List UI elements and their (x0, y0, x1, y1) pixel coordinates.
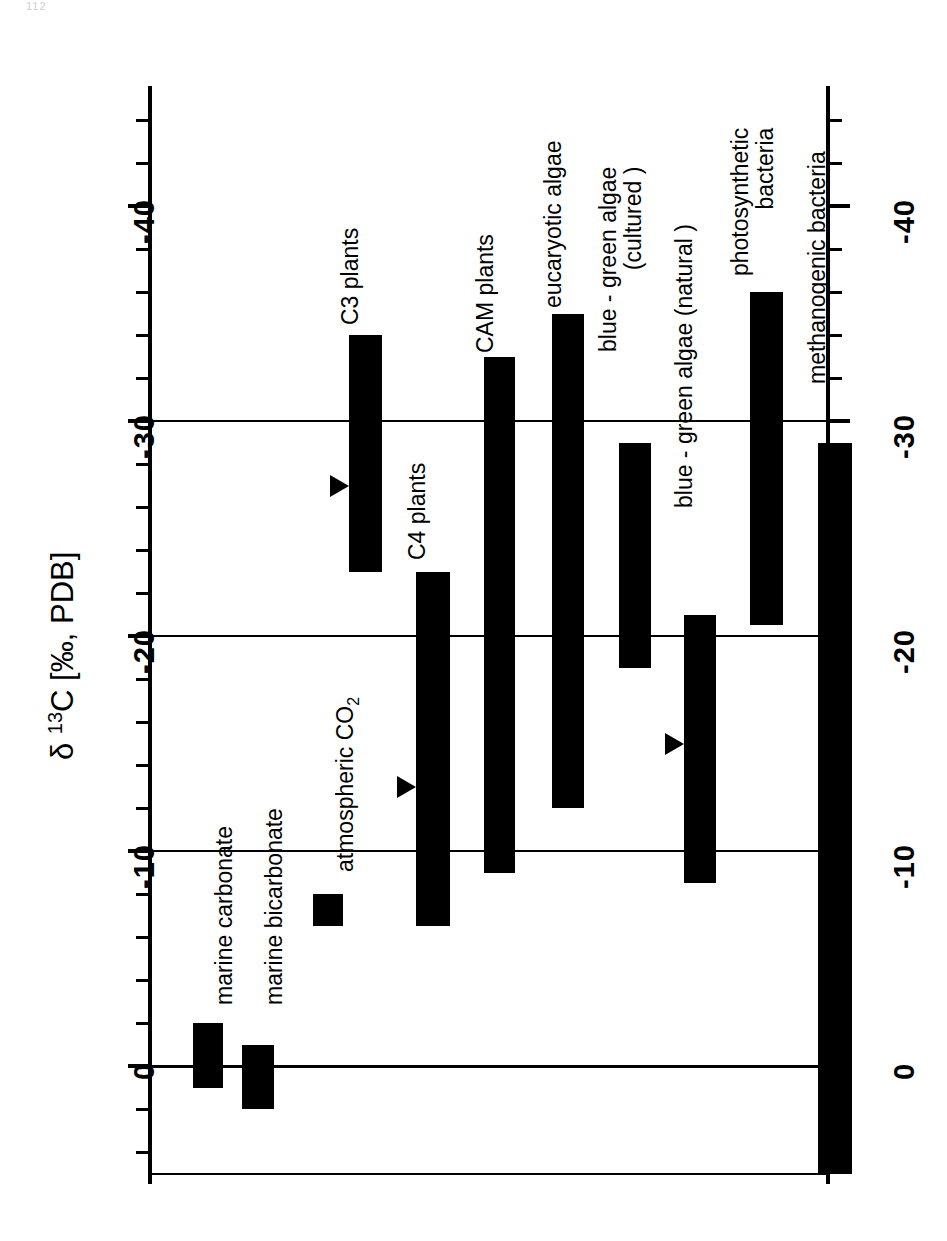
y-tick-minor-left (136, 162, 148, 165)
bar-label-blue-green-algae-cultured: blue - green algae(cultured ) (596, 167, 646, 352)
y-tick-minor-left (136, 248, 148, 251)
bar-atmospheric-co2 (313, 894, 343, 926)
y-tick-minor-left (136, 592, 148, 595)
y-tick-major-right (830, 204, 850, 208)
y-tick-minor-left (136, 291, 148, 294)
gridline-bottom (150, 1173, 828, 1175)
chart-plot-area: 0-10-20-30-40 0-10-20-30-40 marine carbo… (0, 0, 947, 1241)
mean-marker-blue-green-algae-natural (665, 733, 684, 755)
y-tick-label-right--40: -40 (888, 199, 921, 244)
y-tick-minor-right (830, 248, 842, 251)
bar-label-marine-bicarbonate: marine bicarbonate (262, 808, 287, 1005)
bar-cam-plants (484, 357, 515, 873)
y-tick-label-right--30: -30 (888, 414, 921, 459)
y-tick-minor-left (136, 721, 148, 724)
y-tick-minor-right (830, 334, 842, 337)
y-tick-minor-left (136, 678, 148, 681)
figure-page: 112 0-10-20-30-40 0-10-20-30-40 marine c… (0, 0, 947, 1241)
y-tick-minor-left (136, 893, 148, 896)
bar-marine-carbonate (193, 1023, 223, 1088)
bar-c4-plants (416, 572, 450, 927)
y-tick-label-left--10: -10 (128, 844, 161, 889)
bar-marine-bicarbonate (242, 1045, 274, 1110)
y-tick-minor-left (136, 979, 148, 982)
y-tick-major-right (830, 419, 850, 423)
y-tick-label-left--30: -30 (128, 414, 161, 459)
y-tick-label-left--40: -40 (128, 199, 161, 244)
y-tick-minor-left (136, 549, 148, 552)
y-tick-minor-left (136, 807, 148, 810)
bar-c3-plants (349, 335, 382, 572)
mean-marker-c4-plants (397, 776, 416, 798)
bar-methanogenic-bacteria (818, 443, 852, 1174)
bar-label-atmospheric-co2: atmospheric CO2 (333, 697, 362, 872)
y-tick-label-right--10: -10 (888, 844, 921, 889)
y-tick-minor-right (830, 377, 842, 380)
y-tick-minor-right (830, 119, 842, 122)
y-tick-minor-left (136, 1022, 148, 1025)
y-tick-minor-left (136, 119, 148, 122)
y-tick-label-left-0: 0 (128, 1063, 161, 1080)
y-tick-label-right-0: 0 (888, 1063, 921, 1080)
y-tick-minor-left (136, 1108, 148, 1111)
y-axis-title: δ 13C [‰, PDB] (44, 552, 81, 760)
y-tick-minor-right (830, 162, 842, 165)
y-tick-minor-left (136, 463, 148, 466)
bar-label-cam-plants: CAM plants (473, 234, 498, 353)
bar-photosynthetic-bacteria (750, 292, 783, 625)
y-tick-minor-left (136, 377, 148, 380)
bar-blue-green-algae-natural (684, 615, 716, 884)
y-tick-minor-left (136, 764, 148, 767)
bar-blue-green-algae-cultured (619, 443, 651, 669)
y-tick-label-right--20: -20 (888, 629, 921, 674)
bar-label-photosynthetic-bacteria: photosyntheticbacteria (728, 128, 778, 276)
y-tick-minor-left (136, 506, 148, 509)
y-tick-minor-left (136, 1151, 148, 1154)
mean-marker-c3-plants (330, 475, 349, 497)
y-tick-label-left--20: -20 (128, 629, 161, 674)
bar-label-methanogenic-bacteria: methanogenic bacteria (805, 151, 830, 384)
y-tick-minor-right (830, 291, 842, 294)
bar-label-c4-plants: C4 plants (405, 463, 430, 560)
bar-label-c3-plants: C3 plants (338, 228, 363, 325)
bar-label-blue-green-algae-natural: blue - green algae (natural ) (672, 224, 697, 508)
bar-label-marine-carbonate: marine carbonate (212, 826, 237, 1005)
y-tick-minor-left (136, 334, 148, 337)
bar-eucaryotic-algae (552, 314, 584, 809)
bar-label-eucaryotic-algae: eucaryotic algae (541, 141, 566, 309)
y-tick-minor-left (136, 936, 148, 939)
